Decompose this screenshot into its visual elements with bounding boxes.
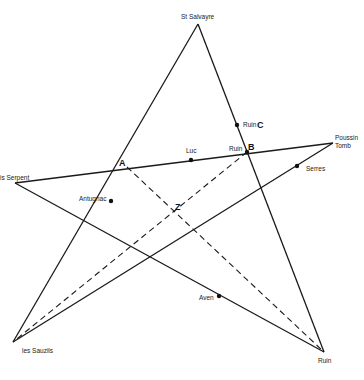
aven-dot: [217, 294, 221, 298]
dashed-line-a-ruin: [127, 167, 324, 352]
label-point-b: B: [248, 142, 255, 152]
label-point-c: C: [257, 120, 264, 130]
label-ruin-bottom: Ruin: [318, 357, 332, 364]
dashed-line-b-sauzils: [13, 152, 247, 342]
label-point-z: Z: [175, 202, 181, 212]
ruin-c-dot: [235, 123, 239, 127]
label-tomb: Tomb: [335, 142, 351, 149]
label-serres: Serres: [306, 165, 326, 172]
label-st-salvayre: St Salvayre: [181, 13, 215, 21]
line-poussin-sauzils: [13, 143, 333, 342]
label-ruin-b: Ruin: [229, 145, 243, 152]
label-aven: Aven: [199, 294, 214, 301]
serres-dot: [295, 164, 299, 168]
luc-dot: [189, 158, 193, 162]
line-salvayre-sauzils: [13, 24, 198, 342]
label-antugnac: Antugnac: [79, 195, 107, 203]
label-les-sauzils: les Sauzils: [22, 347, 54, 354]
label-is-serpent: is Serpent: [0, 174, 29, 182]
line-serpent-poussin: [15, 143, 333, 183]
pentagram-diagram: St Salvayre is Serpent Poussin Tomb les …: [0, 0, 364, 380]
line-serpent-ruin: [15, 183, 324, 352]
label-ruin-c: Ruin: [243, 121, 257, 128]
label-point-a: A: [119, 158, 126, 168]
label-poussin: Poussin: [335, 134, 359, 141]
antugnac-dot: [109, 199, 113, 203]
label-luc: Luc: [186, 147, 197, 154]
